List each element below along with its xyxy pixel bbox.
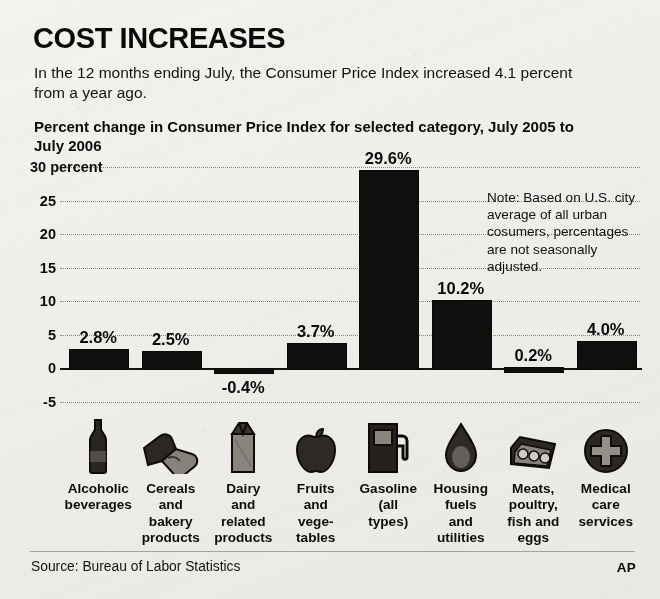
egg-carton-icon xyxy=(497,414,570,474)
bar xyxy=(504,367,564,373)
category-label-line: products xyxy=(202,530,285,546)
bar-value-label: 2.5% xyxy=(122,331,221,348)
category-label-line: products xyxy=(130,530,213,546)
category-label-line: fuels xyxy=(420,497,503,513)
category-label-line: tables xyxy=(275,530,358,546)
category-label-line: related xyxy=(202,514,285,530)
gridline-10 xyxy=(60,301,640,302)
droplet-icon xyxy=(425,414,498,474)
category-label-line: Cereals xyxy=(130,481,213,497)
bar xyxy=(287,343,347,370)
category-label-line: and xyxy=(202,497,285,513)
apple-icon xyxy=(280,414,353,474)
y-tick-label-5: 5 xyxy=(0,327,56,342)
bar xyxy=(142,351,202,370)
bar-value-label: -0.4% xyxy=(194,379,293,396)
y-tick-label-20: 20 xyxy=(0,227,56,242)
y-tick-label-30: 30 percent xyxy=(30,160,154,175)
y-tick-label-25: 25 xyxy=(0,193,56,208)
bar xyxy=(577,341,637,370)
category-label-line: and xyxy=(420,514,503,530)
gas-pump-icon xyxy=(352,414,425,474)
category-label: Cerealsandbakeryproducts xyxy=(130,481,213,547)
category-label-line: types) xyxy=(347,514,430,530)
category-label: Alcoholicbeverages xyxy=(57,481,140,514)
category-label-line: fish and xyxy=(492,514,575,530)
category-label-line: eggs xyxy=(492,530,575,546)
category-label-line: vege- xyxy=(275,514,358,530)
category-label-line: Gasoline xyxy=(347,481,430,497)
category-label-line: care xyxy=(565,497,648,513)
y-tick-label-10: 10 xyxy=(0,294,56,309)
category-label: Medicalcareservices xyxy=(565,481,648,530)
y-tick-label-15: 15 xyxy=(0,260,56,275)
bar-value-label: 29.6% xyxy=(339,150,438,167)
category-label-line: services xyxy=(565,514,648,530)
y-tick-label--5: -5 xyxy=(0,394,56,409)
gridline--5 xyxy=(60,402,640,403)
category-label-line: Fruits xyxy=(275,481,358,497)
category-label-line: (all xyxy=(347,497,430,513)
category-label-line: and xyxy=(130,497,213,513)
category-label-line: poultry, xyxy=(492,497,575,513)
category-label-line: Alcoholic xyxy=(57,481,140,497)
category-label: Fruitsandvege-tables xyxy=(275,481,358,547)
category-label-line: bakery xyxy=(130,514,213,530)
bar-value-label: 3.7% xyxy=(267,323,366,340)
ap-credit: AP xyxy=(617,560,636,575)
bar xyxy=(432,300,492,370)
category-label: Housingfuelsandutilities xyxy=(420,481,503,547)
category-label-line: utilities xyxy=(420,530,503,546)
category-label-line: Dairy xyxy=(202,481,285,497)
bar-value-label: 10.2% xyxy=(412,280,511,297)
category-label-line: and xyxy=(275,497,358,513)
infographic-page: COST INCREASES In the 12 months ending J… xyxy=(0,0,660,599)
category-label: Gasoline(alltypes) xyxy=(347,481,430,530)
bottle-icon xyxy=(62,414,135,474)
category-label: Meats,poultry,fish andeggs xyxy=(492,481,575,547)
category-label-line: beverages xyxy=(57,497,140,513)
footer-divider xyxy=(30,551,635,552)
milk-carton-icon xyxy=(207,414,280,474)
category-label: Dairyandrelatedproducts xyxy=(202,481,285,547)
bar-value-label: 0.2% xyxy=(484,347,583,364)
y-tick-label-0: 0 xyxy=(0,361,56,376)
bar xyxy=(69,349,129,370)
category-label-line: Medical xyxy=(565,481,648,497)
chart-note: Note: Based on U.S. city average of all … xyxy=(487,189,637,275)
bar xyxy=(359,170,419,370)
bar xyxy=(214,368,274,374)
bar-value-label: 4.0% xyxy=(557,321,656,338)
bread-icon xyxy=(135,414,208,474)
category-label-line: Meats, xyxy=(492,481,575,497)
source-line: Source: Bureau of Labor Statistics xyxy=(31,559,240,574)
medical-cross-icon xyxy=(570,414,643,474)
category-label-line: Housing xyxy=(420,481,503,497)
